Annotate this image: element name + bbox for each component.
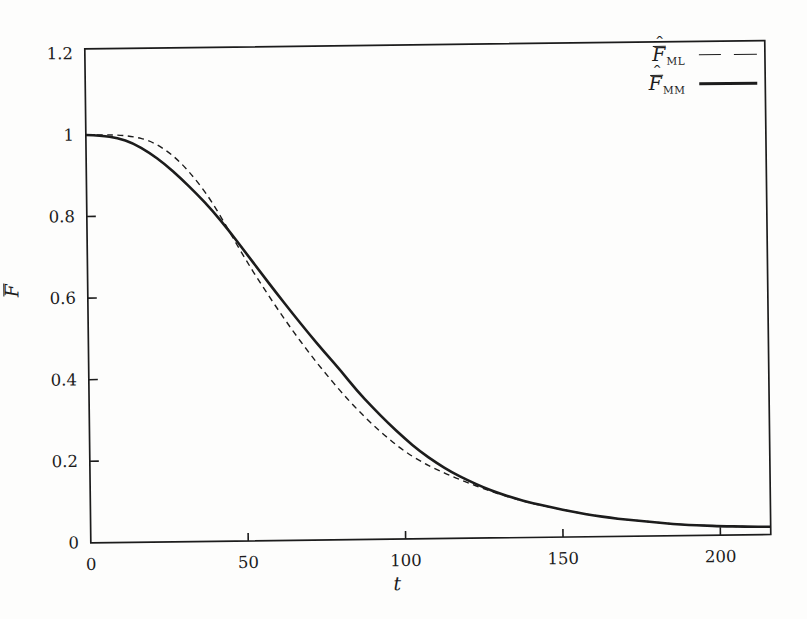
y-tick-label: 1.2 [46, 44, 72, 63]
legend: ˆ FML ˆ FMM [633, 40, 758, 100]
bar-accent [650, 75, 663, 76]
f-bar-hat-symbol: ˆ F [2, 284, 21, 297]
y-axis-label: ˆ F [2, 284, 22, 297]
legend-entry-mm: ˆ FMM [633, 69, 757, 100]
plot-frame [85, 41, 771, 543]
f-bar-hat-symbol: ˆ FMM [649, 73, 686, 95]
series-f_mm [86, 127, 771, 535]
y-tick-label: 0.8 [48, 207, 74, 226]
x-tick-label: 100 [390, 551, 422, 570]
x-tick-label: 200 [705, 547, 737, 566]
y-tick-label: 0 [68, 533, 79, 552]
legend-solid-line-sample [699, 80, 757, 87]
legend-dashed-line-sample [699, 51, 757, 58]
y-tick-label: 0.6 [49, 289, 75, 308]
y-tick-label: 0.4 [50, 370, 76, 389]
x-tick-label: 0 [86, 555, 97, 574]
chart-figure: 05010015020000.20.40.60.811.2 ˆ F t ˆ FM… [0, 0, 807, 619]
x-axis-label: t [393, 572, 401, 594]
bar-accent [653, 46, 666, 47]
y-tick-label: 1 [63, 126, 74, 145]
bar-accent [3, 283, 4, 296]
legend-subscript: ML [666, 54, 685, 66]
y-tick-label: 0.2 [51, 452, 77, 471]
x-tick-label: 50 [238, 553, 259, 572]
x-tick-label: 150 [547, 549, 579, 568]
hat-accent-icon: ˆ [650, 35, 670, 50]
hat-accent-icon: ˆ [647, 65, 667, 80]
series-f_ml [86, 127, 771, 535]
legend-subscript: MM [663, 83, 685, 95]
legend-label-mm: ˆ FMM [633, 73, 685, 95]
